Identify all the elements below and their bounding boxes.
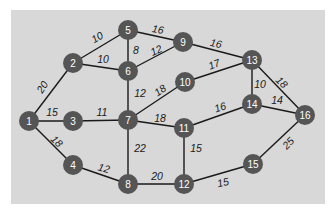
edge-weight-label: 10 bbox=[89, 29, 105, 45]
edge-weight-label: 17 bbox=[206, 56, 222, 72]
edge-weight-label: 16 bbox=[151, 22, 165, 36]
edge-weight-label: 16 bbox=[209, 36, 223, 50]
node-label: 16 bbox=[299, 110, 311, 121]
node-label: 15 bbox=[247, 159, 259, 170]
edge-weight-label: 22 bbox=[133, 142, 146, 154]
node-13: 13 bbox=[242, 50, 262, 70]
edge-weight-label: 18 bbox=[274, 74, 291, 91]
node-layer: 12345678910111213141516 bbox=[19, 20, 315, 194]
node-label: 14 bbox=[246, 99, 258, 110]
edge-weight-label: 14 bbox=[271, 94, 283, 106]
node-label: 13 bbox=[246, 55, 258, 66]
node-label: 7 bbox=[125, 115, 131, 126]
node-14: 14 bbox=[242, 94, 262, 114]
edge-15-16 bbox=[253, 115, 305, 164]
edge-weight-label: 15 bbox=[190, 142, 202, 154]
edge-weight-label: 18 bbox=[152, 82, 169, 99]
node-9: 9 bbox=[173, 32, 193, 52]
edge-weight-label: 10 bbox=[97, 53, 109, 65]
graph-diagram: 2015181010111281612121818222016171615151… bbox=[0, 0, 333, 220]
node-label: 5 bbox=[125, 25, 131, 36]
node-8: 8 bbox=[118, 174, 138, 194]
node-label: 1 bbox=[26, 116, 32, 127]
node-2: 2 bbox=[63, 53, 83, 73]
node-label: 6 bbox=[125, 66, 131, 77]
edge-weight-label: 10 bbox=[254, 78, 266, 90]
node-16: 16 bbox=[295, 105, 315, 125]
node-label: 11 bbox=[179, 123, 190, 134]
node-label: 4 bbox=[70, 160, 76, 171]
edge-weight-label: 8 bbox=[133, 44, 139, 56]
node-6: 6 bbox=[118, 61, 138, 81]
edge-weight-label: 11 bbox=[97, 106, 108, 118]
node-10: 10 bbox=[175, 72, 195, 92]
edge-weight-label: 12 bbox=[97, 161, 112, 176]
edge-weight-label: 12 bbox=[148, 42, 164, 58]
node-7: 7 bbox=[118, 110, 138, 130]
node-label: 3 bbox=[70, 116, 76, 127]
node-1: 1 bbox=[19, 111, 39, 131]
edge-weight-label: 20 bbox=[33, 79, 50, 96]
node-5: 5 bbox=[118, 20, 138, 40]
node-15: 15 bbox=[243, 154, 263, 174]
edge-weight-label: 15 bbox=[46, 106, 58, 118]
node-12: 12 bbox=[174, 174, 194, 194]
edge-weight-label: 15 bbox=[216, 175, 230, 189]
node-label: 8 bbox=[125, 179, 131, 190]
node-label: 10 bbox=[179, 77, 191, 88]
edge-weight-label: 12 bbox=[134, 87, 146, 99]
node-label: 2 bbox=[70, 58, 76, 69]
node-label: 12 bbox=[178, 179, 190, 190]
edge-weight-label: 18 bbox=[154, 112, 166, 124]
node-3: 3 bbox=[63, 111, 83, 131]
node-11: 11 bbox=[174, 118, 194, 138]
node-4: 4 bbox=[63, 155, 83, 175]
edge-weight-label: 20 bbox=[150, 170, 163, 182]
edge-weight-label: 16 bbox=[213, 99, 228, 114]
edge-weight-label: 18 bbox=[49, 133, 66, 150]
node-label: 9 bbox=[180, 37, 186, 48]
